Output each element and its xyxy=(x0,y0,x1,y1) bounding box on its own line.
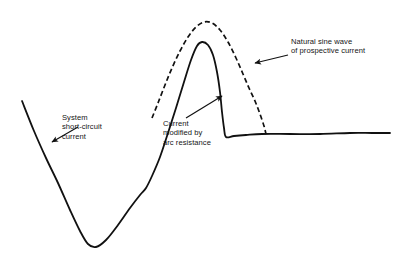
label-line-3: arc resistance xyxy=(163,138,211,147)
label-line-1: System xyxy=(62,113,102,122)
waveform-figure: System short-circuit current Current mod… xyxy=(0,0,408,261)
current-modified-arrow xyxy=(186,96,222,118)
label-system-short-circuit-current: System short-circuit current xyxy=(62,113,102,141)
label-line-2: short-circuit xyxy=(62,122,102,131)
label-line-2: of prospective current xyxy=(291,46,365,55)
natural-sine-wave-arrow xyxy=(255,55,288,63)
label-line-3: current xyxy=(62,132,102,141)
label-natural-sine-wave: Natural sine wave of prospective current xyxy=(291,37,365,56)
natural-sine-wave-curve xyxy=(152,22,266,134)
label-line-1: Current xyxy=(163,119,211,128)
label-line-2: modified by xyxy=(163,128,211,137)
label-line-1: Natural sine wave xyxy=(291,37,365,46)
label-current-modified-by-arc-resistance: Current modified by arc resistance xyxy=(163,119,211,147)
